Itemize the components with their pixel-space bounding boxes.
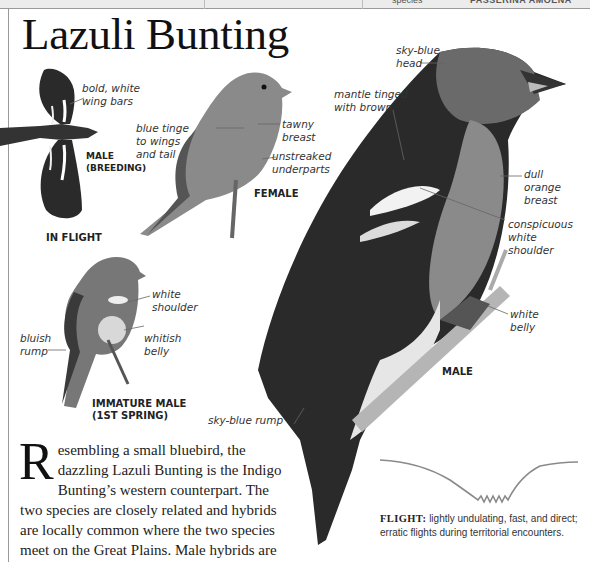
caption-line: IMMATURE MALE <box>92 398 186 410</box>
label-white-belly: white belly <box>510 308 539 334</box>
label-dull-orange-breast: dull orange breast <box>524 168 561 207</box>
label-line: with brown <box>334 101 408 114</box>
label-line: belly <box>510 321 539 334</box>
caption-in-flight: IN FLIGHT <box>46 232 102 244</box>
flight-description: FLIGHT: lightly undulating, fast, and di… <box>380 512 590 540</box>
label-line: head <box>396 57 440 70</box>
label-line: shoulder <box>508 244 573 257</box>
immature-male-bird-illustration <box>62 257 146 408</box>
description-text: Resembling a small bluebird, the dazzlin… <box>20 440 282 562</box>
label-line: mantle tinged <box>334 88 408 101</box>
label-line: unstreaked <box>272 150 331 163</box>
label-blue-tinge: blue tinge to wings and tail <box>136 122 189 161</box>
label-sky-blue-rump: sky-blue rump <box>208 414 283 427</box>
caption-line: (1ST SPRING) <box>92 410 186 422</box>
label-line: bluish <box>20 332 51 345</box>
label-line: white <box>508 231 573 244</box>
flight-heading: FLIGHT: <box>380 513 426 524</box>
label-bluish-rump: bluish rump <box>20 332 51 358</box>
flight-pattern-line <box>380 460 578 502</box>
label-line: breast <box>282 131 315 144</box>
label-sky-blue-head: sky-blue head <box>396 44 440 70</box>
label-line: underparts <box>272 163 331 176</box>
description-body: esembling a small bluebird, the dazzling… <box>20 442 281 562</box>
label-line: conspicuous <box>508 218 573 231</box>
label-line: white <box>152 288 198 301</box>
label-tawny-breast: tawny breast <box>282 118 315 144</box>
label-line: orange <box>524 181 561 194</box>
label-line: dull <box>524 168 561 181</box>
label-line: blue tinge <box>136 122 189 135</box>
label-line: shoulder <box>152 301 198 314</box>
label-wing-bars: bold, white wing bars <box>82 82 140 108</box>
label-white-shoulder: white shoulder <box>152 288 198 314</box>
drop-cap: R <box>19 442 54 482</box>
label-line: wing bars <box>82 95 140 108</box>
label-mantle: mantle tinged with brown <box>334 88 408 114</box>
caption-immature-male: IMMATURE MALE (1ST SPRING) <box>92 398 186 422</box>
label-line: rump <box>20 345 51 358</box>
label-unstreaked-underparts: unstreaked underparts <box>272 150 331 176</box>
label-conspicuous-white-shoulder: conspicuous white shoulder <box>508 218 573 257</box>
label-line: and tail <box>136 148 189 161</box>
label-line: sky-blue <box>396 44 440 57</box>
label-line: breast <box>524 194 561 207</box>
label-line: belly <box>144 345 181 358</box>
caption-male: MALE <box>442 366 473 378</box>
label-line: to wings <box>136 135 189 148</box>
label-line: bold, white <box>82 82 140 95</box>
caption-line: (BREEDING) <box>86 162 146 174</box>
label-line: tawny <box>282 118 315 131</box>
label-line: white <box>510 308 539 321</box>
label-whitish-belly: whitish belly <box>144 332 181 358</box>
caption-female: FEMALE <box>254 188 299 200</box>
label-line: whitish <box>144 332 181 345</box>
